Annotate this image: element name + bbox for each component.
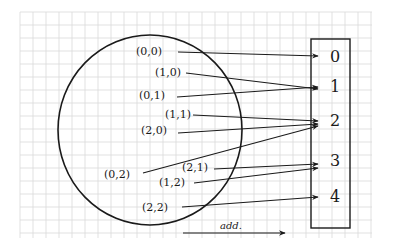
mapping-arrow	[143, 126, 318, 173]
add-annotation: add.	[183, 220, 285, 233]
slot-label-0: 0	[330, 47, 340, 66]
coordinate-pair-label: (1,2)	[159, 176, 185, 189]
grid-paper	[20, 12, 372, 238]
coordinate-pair-label: (0,1)	[139, 89, 165, 102]
slot-label-1: 1	[330, 77, 340, 96]
coordinate-pair-labels: (0,0)(1,0)(0,1)(1,1)(2,0)(0,2)(2,1)(1,2)…	[104, 45, 208, 214]
mapping-arrow	[178, 52, 318, 56]
slot-labels: 01234	[330, 47, 340, 206]
mapping-arrow	[186, 73, 318, 89]
coordinate-pair-label: (2,2)	[142, 201, 168, 214]
add-label: add.	[220, 220, 242, 231]
coordinate-pair-label: (2,1)	[182, 161, 208, 174]
slot-label-4: 4	[330, 187, 340, 206]
coordinate-pair-label: (1,1)	[165, 108, 191, 121]
coordinate-pair-label: (2,0)	[141, 124, 167, 137]
coordinate-pair-label: (0,0)	[136, 45, 162, 58]
slot-label-3: 3	[330, 151, 340, 170]
coordinate-pair-label: (0,2)	[104, 168, 130, 181]
slot-label-2: 2	[330, 111, 340, 130]
coordinate-pair-label: (1,0)	[155, 66, 181, 79]
mapping-arrow	[177, 87, 318, 97]
mapping-diagram: (0,0)(1,0)(0,1)(1,1)(2,0)(0,2)(2,1)(1,2)…	[0, 0, 397, 252]
